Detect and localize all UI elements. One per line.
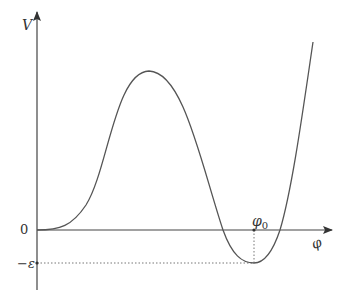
- origin-label: 0: [20, 222, 28, 237]
- epsilon-label: −ε: [17, 256, 35, 271]
- epsilon-point: [35, 261, 38, 264]
- phi0-label: φ0: [252, 213, 268, 231]
- x-axis-label: φ: [309, 233, 324, 251]
- phi0-subscript: 0: [262, 220, 268, 231]
- potential-diagram: V 0 −ε φ φ0: [0, 0, 345, 302]
- phi0-symbol: φ: [252, 213, 262, 229]
- y-axis-label: V: [22, 17, 34, 33]
